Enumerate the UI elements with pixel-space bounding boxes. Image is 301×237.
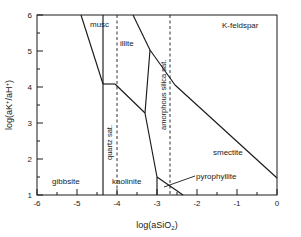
y-axis-title: log(aK+/aH+) — [4, 80, 14, 130]
y-tick-label: 2 — [28, 155, 33, 164]
field-label-kaolinite: kaolinite — [112, 177, 142, 186]
svg-text:log(aK+/aH+): log(aK+/aH+) — [4, 80, 14, 130]
diagram-canvas: -6 -5 -4 -3 -2 -1 0 1 2 3 4 5 6 log(aSiO… — [0, 0, 301, 237]
field-label-k-feldspar: K-feldspar — [222, 21, 259, 30]
x-axis-title-main: log(aSiO — [136, 220, 171, 230]
y-tick-label: 5 — [28, 47, 33, 56]
svg-text:log(aSiO2): log(aSiO2) — [136, 220, 177, 231]
y-axis-title-mid: /aH — [4, 86, 14, 100]
y-tick-label: 4 — [28, 83, 33, 92]
field-label-gibbsite: gibbsite — [52, 177, 80, 186]
x-tick-label: 0 — [275, 199, 280, 208]
field-label-pyrophyllite: pyrophyllite — [196, 172, 237, 181]
x-axis-title: log(aSiO2) — [136, 220, 177, 231]
field-label-illite: illite — [120, 39, 134, 48]
x-tick-label: -5 — [73, 199, 81, 208]
x-axis-title-close: ) — [175, 220, 178, 230]
y-axis-title-close: ) — [4, 80, 14, 83]
y-tick-label: 1 — [28, 191, 33, 200]
saturation-label-quartz: quartz sat. — [105, 125, 114, 160]
y-axis-title-main: log(aK — [4, 104, 14, 130]
saturation-label-amorphous-silica: amorphous silica sat. — [159, 60, 168, 130]
plot-frame — [37, 15, 277, 195]
x-tick-label: -6 — [33, 199, 41, 208]
x-tick-labels: -6 -5 -4 -3 -2 -1 0 — [33, 199, 279, 208]
y-tick-label: 6 — [28, 11, 33, 20]
x-tick-label: -1 — [233, 199, 241, 208]
y-tick-labels: 1 2 3 4 5 6 — [28, 11, 33, 200]
activity-diagram-figure: -6 -5 -4 -3 -2 -1 0 1 2 3 4 5 6 log(aSiO… — [0, 0, 301, 237]
x-tick-label: -2 — [193, 199, 201, 208]
y-tick-label: 3 — [28, 119, 33, 128]
field-label-musc: musc — [90, 20, 109, 29]
x-tick-label: -4 — [113, 199, 121, 208]
field-label-smectite: smectite — [213, 148, 243, 157]
x-tick-label: -3 — [153, 199, 161, 208]
